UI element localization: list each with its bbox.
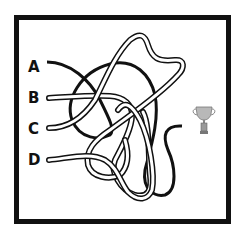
maze-lines (0, 0, 244, 237)
trophy-icon (193, 107, 215, 134)
